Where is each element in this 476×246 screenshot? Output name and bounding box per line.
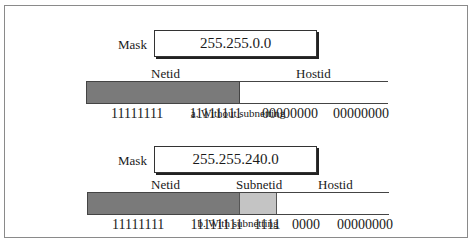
mask-label-b: Mask xyxy=(118,153,147,169)
caption-a: a. Without subnetting xyxy=(160,107,316,119)
netid-byte-1-a: 11111111 xyxy=(111,106,163,121)
mask-value-box-b: 255.255.240.0 xyxy=(154,146,317,173)
netid-header-b: Netid xyxy=(151,177,180,193)
address-bits-bar-a: 1111111111111111 0000000000000000 xyxy=(86,81,388,104)
address-bits-bar-b: 1111111111111111 1111 000000000000 xyxy=(87,192,389,215)
mask-label-a: Mask xyxy=(118,37,147,53)
hostid-segment-a: 0000000000000000 xyxy=(239,82,389,103)
subnetid-header-b: Subnetid xyxy=(236,177,282,193)
netid-segment-b: 1111111111111111 xyxy=(88,193,239,214)
hostid-byte-2-b: 00000000 xyxy=(337,217,393,232)
subnetid-segment-b: 1111 xyxy=(239,193,277,214)
caption-b: b. With subnetting xyxy=(160,217,316,229)
netid-segment-a: 1111111111111111 xyxy=(87,82,239,103)
hostid-byte-2-a: 00000000 xyxy=(333,106,389,121)
netid-byte-1-b: 11111111 xyxy=(112,217,164,232)
hostid-segment-b: 000000000000 xyxy=(277,193,393,214)
hostid-header-a: Hostid xyxy=(296,66,331,82)
mask-value-box-a: 255.255.0.0 xyxy=(154,30,317,57)
netid-header-a: Netid xyxy=(151,66,180,82)
hostid-header-b: Hostid xyxy=(318,177,353,193)
